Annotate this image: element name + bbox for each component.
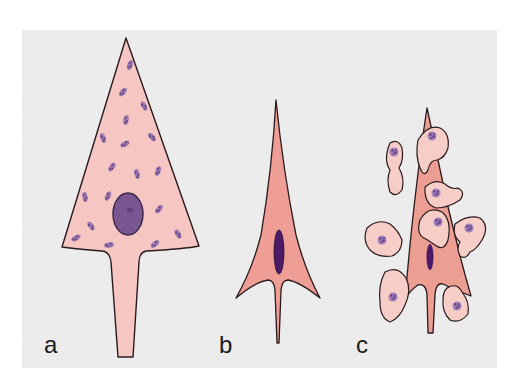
panel-label-a: a [44,331,58,358]
panel-label-c: c [356,331,368,358]
cell-b-nucleus [274,230,284,274]
cell-c-nucleus [427,244,434,270]
panel-label-b: b [219,331,232,358]
neuron-diagram: a b [0,0,519,386]
cell-a-nucleus [113,193,143,235]
